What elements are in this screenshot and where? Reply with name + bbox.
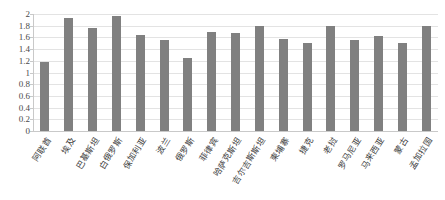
x-label-slot: 孟加拉国 [414, 133, 438, 200]
y-tick-label: 1 [26, 68, 31, 77]
x-axis-tick-label: 波兰 [154, 135, 172, 156]
y-tick-label: 1.2 [19, 56, 30, 65]
x-label-slot: 保加利亚 [128, 133, 152, 200]
x-label-slot: 柬埔寨 [271, 133, 295, 200]
y-tick-label: 1.4 [19, 45, 30, 54]
x-axis-tick-label: 阿联酋 [31, 135, 54, 163]
x-label-slot: 俄罗斯 [176, 133, 200, 200]
y-tick-label: 0.6 [19, 91, 30, 100]
bar-slot [390, 14, 414, 131]
bar-slot [81, 14, 105, 131]
bar [326, 26, 335, 131]
y-tick-label: 2 [26, 10, 31, 19]
x-axis-tick-label: 埃及 [59, 135, 77, 156]
bar-slot [367, 14, 391, 131]
bar [64, 18, 73, 131]
bar [40, 62, 49, 131]
x-axis-tick-label: 柬埔寨 [269, 135, 292, 163]
x-label-slot: 马来西亚 [367, 133, 391, 200]
x-axis-labels: 阿联酋埃及巴基斯坦白俄罗斯保加利亚波兰俄罗斯菲律宾哈萨克斯坦吉尔吉斯斯坦柬埔寨捷… [33, 133, 438, 200]
x-axis-tick-label: 俄罗斯 [174, 135, 197, 163]
bar [136, 35, 145, 131]
bar [112, 16, 121, 131]
bar-slot [414, 14, 438, 131]
bar-slot [271, 14, 295, 131]
x-axis-tick-label: 老挝 [321, 135, 339, 156]
bar [398, 43, 407, 131]
x-axis-tick-label: 蒙古 [393, 135, 411, 156]
bar [255, 26, 264, 131]
x-label-slot: 吉尔吉斯斯坦 [247, 133, 271, 200]
bar [279, 39, 288, 131]
bar [207, 32, 216, 131]
bar-slot [176, 14, 200, 131]
bar [422, 26, 431, 131]
bar [303, 43, 312, 131]
y-tick-label: 1.6 [19, 33, 30, 42]
bar-chart: 21.81.61.41.210.80.60.40.20 阿联酋埃及巴基斯坦白俄罗… [0, 0, 445, 200]
x-label-slot: 阿联酋 [33, 133, 57, 200]
bar [160, 40, 169, 131]
y-tick-label: 0.8 [19, 80, 30, 89]
bar-slot [33, 14, 57, 131]
bar [231, 33, 240, 131]
y-tick-label: 0 [26, 127, 31, 136]
bar [88, 28, 97, 131]
clipped-header-strip [0, 0, 445, 9]
bar-slot [295, 14, 319, 131]
bar [374, 36, 383, 131]
x-axis-tick-label: 菲律宾 [197, 135, 220, 163]
y-tick-label: 0.2 [19, 115, 30, 124]
x-axis-line [33, 131, 438, 132]
bar-slot [57, 14, 81, 131]
x-label-slot: 波兰 [152, 133, 176, 200]
bar-slot [224, 14, 248, 131]
bar [183, 58, 192, 131]
bar-slot [104, 14, 128, 131]
bars-layer [33, 14, 438, 131]
bar-slot [319, 14, 343, 131]
y-tick-label: 0.4 [19, 103, 30, 112]
bar [350, 40, 359, 131]
bar-slot [247, 14, 271, 131]
bar-slot [200, 14, 224, 131]
bar-slot [152, 14, 176, 131]
bar-slot [343, 14, 367, 131]
y-tick-label: 1.8 [19, 21, 30, 30]
bar-slot [128, 14, 152, 131]
plot-area: 21.81.61.41.210.80.60.40.20 [33, 14, 438, 132]
x-label-slot: 捷克 [295, 133, 319, 200]
x-axis-tick-label: 捷克 [297, 135, 315, 156]
